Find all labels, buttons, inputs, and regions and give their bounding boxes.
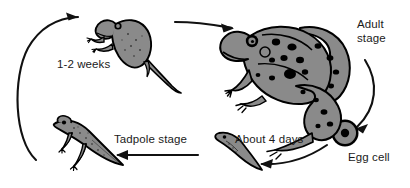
label-about-4-days: About 4 days	[235, 133, 303, 147]
label-adult-stage: Adult stage	[357, 18, 386, 45]
frog-life-cycle-diagram: 1-2 weeks Adult stage Tadpole stage Abou…	[0, 0, 410, 188]
young-frog-illustration	[87, 20, 181, 93]
tadpole-with-legs-illustration	[54, 116, 123, 171]
arrow-young-tadpole-to-tadpole	[116, 150, 198, 160]
arrow-adult-to-egg	[356, 60, 375, 134]
label-tadpole-stage: Tadpole stage	[114, 133, 187, 147]
arrow-young-frog-to-adult	[175, 22, 234, 33]
label-1-2-weeks: 1-2 weeks	[57, 58, 110, 72]
label-egg-cell: Egg cell	[348, 151, 390, 165]
